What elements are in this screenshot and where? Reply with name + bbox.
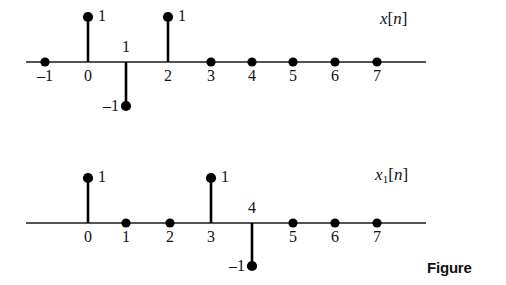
bottom-sample-dot-n0 xyxy=(83,173,93,183)
plot-top-group xyxy=(26,12,426,111)
bottom-tick-label-n7: 7 xyxy=(373,229,381,245)
top-sample-dot-n6 xyxy=(330,57,339,66)
bottom-signal-label: x1[n] xyxy=(375,166,408,185)
bottom-sample-dot-n2 xyxy=(165,218,174,227)
bottom-tick-label-n5: 5 xyxy=(289,229,297,245)
bottom-amplitude-label-n4-negative: –1 xyxy=(229,258,245,274)
bottom-tick-label-n0: 0 xyxy=(84,229,92,245)
top-sample-dot-n-minus1 xyxy=(40,57,49,66)
top-sample-dot-n3 xyxy=(206,57,215,66)
top-amplitude-label-n2: 1 xyxy=(178,8,186,24)
bottom-signal-bracket-close: ] xyxy=(402,165,408,184)
top-tick-label-n0: 0 xyxy=(84,68,92,84)
top-tick-label-n3: 3 xyxy=(207,68,215,84)
bottom-amplitude-label-n3: 1 xyxy=(221,169,229,185)
bottom-tick-label-n6: 6 xyxy=(331,229,339,245)
bottom-sample-dot-n4 xyxy=(247,261,257,271)
bottom-sample-dot-n7 xyxy=(372,218,381,227)
plot-bottom-group xyxy=(26,173,426,271)
bottom-signal-base: x xyxy=(375,165,383,184)
top-amplitude-label-n1-negative: –1 xyxy=(103,98,119,114)
stem-plot-canvas xyxy=(0,0,506,285)
bottom-sample-dot-n5 xyxy=(288,218,297,227)
figure-container: –1 0 1 2 3 4 5 6 7 1 1 –1 x[n] 0 1 2 3 4… xyxy=(0,0,506,285)
bottom-sample-dot-n3 xyxy=(206,173,216,183)
top-signal-base: x xyxy=(380,9,388,28)
top-amplitude-label-n0: 1 xyxy=(98,8,106,24)
top-signal-label: x[n] xyxy=(380,10,407,27)
top-signal-variable: n xyxy=(393,9,402,28)
top-sample-dot-n2 xyxy=(163,12,173,22)
top-sample-dot-n7 xyxy=(372,57,381,66)
top-tick-label-n1: 1 xyxy=(122,39,130,55)
top-sample-dot-n0 xyxy=(83,12,93,22)
bottom-tick-label-n1: 1 xyxy=(122,229,130,245)
bottom-tick-label-n2: 2 xyxy=(166,229,174,245)
figure-caption: Figure xyxy=(427,259,472,276)
top-sample-dot-n1 xyxy=(121,101,131,111)
top-tick-label-n-minus1: –1 xyxy=(37,68,53,84)
bottom-tick-label-n4: 4 xyxy=(248,200,256,216)
top-tick-label-n4: 4 xyxy=(248,68,256,84)
top-tick-label-n7: 7 xyxy=(373,68,381,84)
top-sample-dot-n5 xyxy=(288,57,297,66)
bottom-sample-dot-n1 xyxy=(121,218,130,227)
bottom-sample-dot-n6 xyxy=(330,218,339,227)
top-tick-label-n5: 5 xyxy=(289,68,297,84)
top-tick-label-n2: 2 xyxy=(164,68,172,84)
bottom-amplitude-label-n0: 1 xyxy=(98,169,106,185)
top-signal-bracket-close: ] xyxy=(402,9,408,28)
bottom-tick-label-n3: 3 xyxy=(207,229,215,245)
top-sample-dot-n4 xyxy=(247,57,256,66)
top-tick-label-n6: 6 xyxy=(331,68,339,84)
